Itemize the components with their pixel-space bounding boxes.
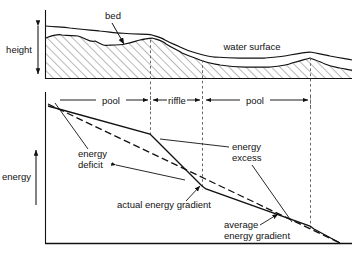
lower-panel: energy energy deficit energy excess actu… [2, 92, 352, 244]
bed-label: bed [105, 10, 121, 21]
average-energy-gradient-label-line2: energy gradient [224, 230, 290, 241]
height-axis-label: height [6, 44, 32, 55]
riffle-label: riffle [168, 95, 186, 106]
energy-deficit-leader-upper [55, 103, 88, 149]
water-surface-label: water surface [222, 41, 280, 52]
energy-excess-leader-down [252, 165, 292, 222]
average-energy-gradient-line [48, 104, 340, 243]
pool-1-label: pool [102, 95, 120, 106]
upper-panel: height bed water surface [6, 10, 352, 79]
figure-root: height bed water surface pool riffle poo… [0, 0, 360, 258]
energy-axis-label: energy [2, 171, 31, 182]
actual-energy-gradient-label: actual energy gradient [117, 199, 211, 210]
energy-excess-label-line2: excess [232, 152, 262, 163]
energy-deficit-leader-arrow [116, 165, 185, 180]
energy-deficit-label-line1: energy [78, 148, 107, 159]
pool-2-label: pool [246, 95, 264, 106]
energy-deficit-label-line2: deficit [78, 159, 103, 170]
average-energy-gradient-label-line1: average [224, 219, 258, 230]
energy-excess-label-line1: energy [232, 141, 261, 152]
diagram-svg: height bed water surface pool riffle poo… [0, 0, 360, 258]
reach-label-row: pool riffle pool [60, 95, 308, 106]
energy-excess-leader-left [160, 139, 229, 147]
average-energy-gradient-leader [260, 214, 278, 225]
